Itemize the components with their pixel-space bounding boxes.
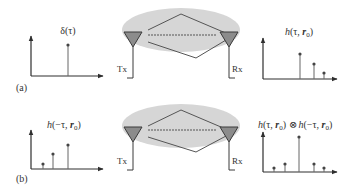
stem-head <box>283 162 286 165</box>
impulse-stem-head <box>66 43 69 46</box>
tx-mast <box>127 47 133 78</box>
tx-label: Tx <box>117 64 127 74</box>
stem-head <box>312 162 315 165</box>
impulse-plot: δ(τ) <box>31 25 103 76</box>
stem-head <box>297 135 300 138</box>
stem-head <box>322 71 325 74</box>
panel-b: h(−τ, r0) (b) Tx Rx <box>16 104 337 185</box>
convolution-label: h(τ, r0)⊗h(−τ, r0) <box>258 119 332 132</box>
stem-head <box>41 162 44 165</box>
stem-head <box>66 143 69 146</box>
multipath-channel-b: Tx Rx <box>117 104 243 170</box>
focused-output-plot: h(τ, r0)⊗h(−τ, r0) <box>258 119 337 172</box>
time-reversal-diagram: δ(τ) (a) Tx Rx <box>0 0 357 191</box>
rx-antenna: Rx <box>220 127 243 170</box>
rx-label: Rx <box>232 156 243 166</box>
impulse-label: δ(τ) <box>60 25 75 37</box>
channel-response-plot: h(τ, r0) <box>263 26 337 79</box>
multipath-channel-a: Tx Rx <box>117 8 243 78</box>
panel-b-label: (b) <box>16 173 28 185</box>
stem-head <box>51 152 54 155</box>
channel-response-label: h(τ, r0) <box>285 26 313 39</box>
panel-a-label: (a) <box>16 82 27 94</box>
tx-antenna: Tx <box>117 32 142 78</box>
rx-label: Rx <box>232 64 243 74</box>
scattering-medium <box>122 8 240 52</box>
stem-head <box>312 62 315 65</box>
convolution-operator-icon: ⊗ <box>289 119 297 130</box>
stem-head <box>272 166 275 169</box>
tx-mast <box>127 142 133 170</box>
stem-head <box>298 52 301 55</box>
scattering-medium <box>122 104 240 148</box>
time-reversed-label: h(−τ, r0) <box>47 119 81 132</box>
stem-head <box>322 166 325 169</box>
tx-label: Tx <box>117 156 127 166</box>
tx-antenna: Tx <box>117 127 142 170</box>
time-reversed-plot: h(−τ, r0) <box>31 119 103 169</box>
panel-a: δ(τ) (a) Tx Rx <box>16 8 337 94</box>
